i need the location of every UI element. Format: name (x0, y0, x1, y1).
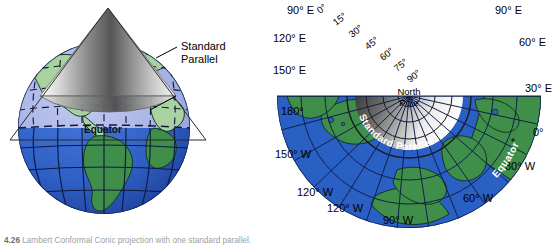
globe-equator-label: Equator (84, 124, 122, 135)
standard-parallel-label-line1: Standard (181, 40, 226, 52)
north-pole-line1: North (397, 86, 420, 97)
figure-caption: 4.26 Lambert Conformal Conic projection … (4, 236, 556, 246)
lat-tick-30: 30° (346, 22, 364, 40)
north-pole-label: North Pole (397, 86, 420, 108)
figure-caption-number: 4.26 (4, 236, 20, 245)
lat-tick-90: 90° (404, 67, 422, 85)
lon-left-180: 180° (281, 105, 304, 117)
unrolled-conic-projection: North Pole 0° 15° 30° 45° 60° 75° 90° 90… (279, 0, 558, 232)
figure-caption-text: Lambert Conformal Conic projection with … (22, 236, 251, 245)
figure-lambert-conformal-conic: Standard Parallel Equator (0, 0, 558, 247)
lat-tick-15: 15° (330, 10, 348, 28)
lon-left-120E: 120° E (273, 32, 306, 44)
lat-tick-45: 45° (362, 34, 380, 52)
lon-left-150E: 150° E (273, 64, 306, 76)
lon-left-90E: 90° E (287, 4, 314, 16)
globe-with-cone: Standard Parallel Equator (0, 0, 279, 232)
lon-left-150W: 150° W (275, 148, 312, 160)
lon-right-0: 0° (533, 126, 544, 138)
standard-parallel-label-line2: Parallel (181, 53, 218, 65)
lon-bottom-120W: 120° W (327, 202, 364, 214)
lon-bottom-90W: 90° W (383, 214, 414, 226)
latitude-tick-labels: 0° 15° 30° 45° 60° 75° 90° (314, 1, 422, 84)
north-pole-line2: Pole (399, 97, 418, 108)
lon-right-60E: 60° E (519, 36, 546, 48)
lon-left-120W: 120° W (297, 186, 334, 198)
lat-tick-60: 60° (377, 45, 395, 63)
lon-right-30E: 30° E (525, 82, 552, 94)
lon-right-90E: 90° E (495, 4, 522, 16)
lat-tick-75: 75° (391, 56, 409, 74)
lon-right-60W: 60° W (463, 192, 494, 204)
lat-tick-0: 0° (314, 1, 328, 15)
